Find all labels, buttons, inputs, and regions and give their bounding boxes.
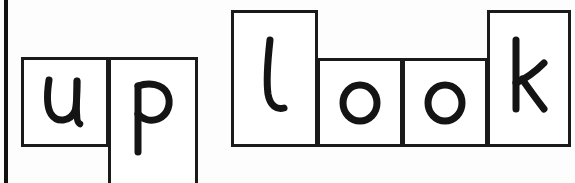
- letter-tile-p[interactable]: [108, 57, 198, 183]
- handwritten-letter-k: [507, 37, 551, 113]
- handwritten-letter-u: [42, 76, 88, 128]
- letter-tile-k[interactable]: [487, 10, 571, 147]
- left-margin-rule: [4, 0, 8, 183]
- handwritten-letter-o: [423, 80, 467, 126]
- letter-tile-worksheet: [0, 0, 575, 183]
- handwritten-letter-l: [260, 36, 290, 114]
- letter-tile-u[interactable]: [21, 57, 109, 147]
- letter-tile-l[interactable]: [231, 10, 318, 147]
- handwritten-letter-o: [338, 80, 382, 126]
- letter-tile-o-2[interactable]: [402, 58, 488, 147]
- letter-tile-o-1[interactable]: [317, 58, 403, 147]
- handwritten-letter-p: [129, 78, 177, 158]
